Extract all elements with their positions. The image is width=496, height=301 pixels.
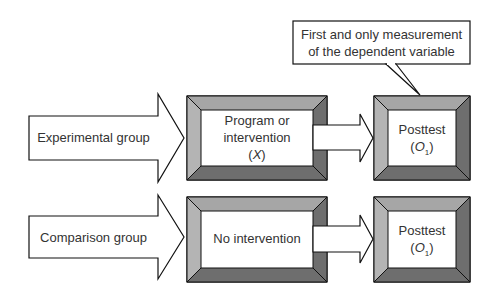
experimental-group-label: Experimental group [29,129,158,146]
callout-text: First and only measurement of the depend… [293,26,470,60]
treatment-line-1: Program or [201,112,313,129]
posttest-symbol: (O1) [388,138,456,161]
callout-line-1: First and only measurement [293,26,470,43]
treatment-symbol: (X) [201,146,313,163]
treatment-label-2: No intervention [201,230,313,247]
comparison-group-label: Comparison group [29,229,158,246]
posttest-title: Posttest [388,222,456,239]
treatment-line-2: intervention [201,129,313,146]
posttest-label-1: Posttest (O1) [388,121,456,161]
posttest-label-2: Posttest (O1) [388,222,456,262]
posttest-title: Posttest [388,121,456,138]
treatment-label-1: Program or intervention (X) [201,112,313,163]
posttest-symbol: (O1) [388,239,456,262]
callout-line-2: of the dependent variable [293,43,470,60]
